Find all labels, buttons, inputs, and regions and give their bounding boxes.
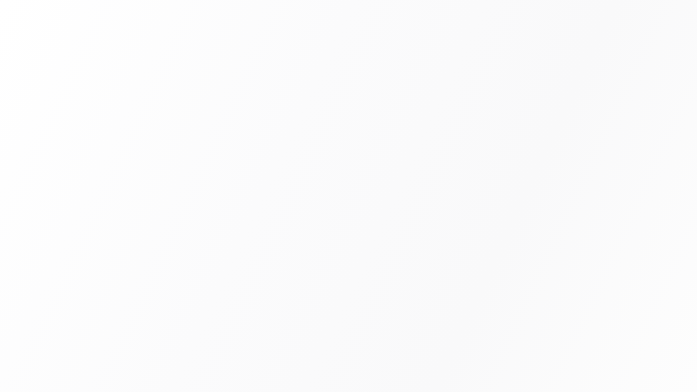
bar-drive[interactable]: [158, 81, 572, 98]
bar-value-label: 38%: [410, 276, 428, 286]
bar-proactive-approach[interactable]: [158, 243, 423, 260]
bar-value-label: 49%: [481, 146, 499, 156]
x-tick-mark: [223, 339, 224, 344]
bar-row: 53%: [158, 111, 561, 143]
y-tick-label-drive: Drive: [24, 84, 150, 94]
bar-value-label: 42%: [436, 211, 454, 221]
y-tick-label-proactive-approach: Proactive approach: [24, 246, 150, 256]
x-tick-mark: [482, 339, 483, 344]
bar-value-label: 53%: [507, 114, 525, 124]
x-tick-mark: [546, 339, 547, 344]
x-tick-label: 50%: [462, 346, 502, 356]
bar-risk-taking[interactable]: [158, 178, 456, 195]
bar-row: 76%: [158, 14, 697, 46]
figure-caption: FIGURE 1.2: [22, 382, 86, 392]
x-tick-label: 40%: [397, 346, 437, 356]
x-tick-label: 60%: [526, 346, 566, 356]
y-tick-label-innovation: Innovation: [24, 149, 150, 159]
bar-row: 49%: [158, 144, 535, 176]
bar-value-label: 64%: [578, 81, 596, 91]
bar-innovation[interactable]: [158, 146, 475, 163]
y-tick-label-relentless-customer-focus: Relentless customer focus: [24, 278, 150, 288]
bar-ability-to-work-with-teams[interactable]: [158, 308, 397, 325]
bar-row: 73%: [158, 46, 690, 78]
x-tick-mark: [287, 339, 288, 344]
figure-container: Quality VisionPassionDriveIntegrityInnov…: [0, 0, 697, 392]
x-tick-label: 70%: [591, 346, 631, 356]
x-tick-mark: [676, 339, 677, 344]
bar-value-label: 37%: [403, 308, 421, 318]
bar-relentless-customer-focus[interactable]: [158, 275, 404, 292]
bar-row: 37%: [158, 306, 457, 338]
y-tick-label-passion: Passion: [24, 51, 150, 61]
x-tick-mark: [352, 339, 353, 344]
y-tick-label-risk-taking: Risk-taking: [24, 181, 150, 191]
y-axis-tick-labels: VisionPassionDriveIntegrityInnovationRis…: [26, 14, 154, 338]
bar-row: 42%: [158, 208, 490, 240]
y-tick-label-resilience: Resilience: [24, 213, 150, 223]
x-tick-label: 20%: [267, 346, 307, 356]
bar-row: 64%: [158, 79, 632, 111]
bar-value-label: 46%: [462, 179, 480, 189]
bar-value-label: 73%: [636, 49, 654, 59]
plot-area: 76%73%64%53%49%46%42%41%38%37%: [158, 14, 676, 338]
bar-row: 41%: [158, 241, 483, 273]
x-tick-mark: [417, 339, 418, 344]
x-tick-label: 80%: [656, 346, 696, 356]
bar-passion[interactable]: [158, 48, 630, 65]
x-tick-mark: [158, 339, 159, 344]
x-tick-label: 30%: [332, 346, 372, 356]
bar-vision[interactable]: [158, 16, 650, 33]
bar-row: 38%: [158, 273, 464, 305]
x-tick-label: 10%: [203, 346, 243, 356]
bar-value-label: 41%: [429, 243, 447, 253]
bar-row: 46%: [158, 176, 516, 208]
x-axis-title: Percentage of Entrepreneurs Citing: [158, 362, 676, 373]
y-tick-label-integrity: Integrity: [24, 116, 150, 126]
x-tick-mark: [611, 339, 612, 344]
y-tick-label-vision: Vision: [24, 19, 150, 29]
bar-integrity[interactable]: [158, 113, 501, 130]
bar-resilience[interactable]: [158, 210, 430, 227]
bar-value-label: 76%: [656, 17, 674, 27]
x-tick-label: 0%: [138, 346, 178, 356]
y-tick-label-ability-to-work-with-teams: Ability to work with teams: [24, 311, 150, 321]
